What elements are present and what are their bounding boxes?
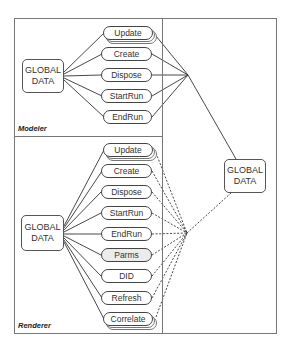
architecture-diagram: GLOBAL DATA Update Create Dispose StartR… (0, 0, 290, 351)
renderer-global-data-box: GLOBAL DATA (21, 215, 64, 251)
renderer-method-dispose: Dispose (101, 185, 152, 199)
modeler-method-endrun: EndRun (103, 110, 152, 124)
renderer-method-startrun: StartRun (101, 206, 152, 220)
modeler-method-startrun: StartRun (101, 89, 152, 103)
modeler-method-dispose: Dispose (101, 68, 152, 82)
renderer-method-endrun: EndRun (101, 227, 152, 241)
shared-global-data-box: GLOBAL DATA (224, 159, 266, 193)
modeler-method-create: Create (101, 47, 152, 61)
renderer-method-did: DID (101, 269, 152, 283)
renderer-method-correlate: Correlate (103, 312, 153, 326)
renderer-label: Renderer (18, 321, 51, 330)
modeler-label: Modeler (18, 124, 47, 133)
renderer-method-refresh: Refresh (101, 291, 152, 305)
renderer-method-parms: Parms (101, 248, 152, 262)
modeler-method-update: Update (103, 26, 153, 40)
modeler-global-data-box: GLOBAL DATA (22, 59, 64, 93)
renderer-method-update: Update (103, 143, 153, 157)
renderer-method-create: Create (101, 164, 152, 178)
